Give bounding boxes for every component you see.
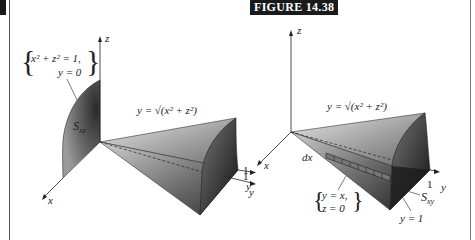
cone-equation: y = √(x² + z²) xyxy=(136,104,197,117)
z-arrowhead-icon xyxy=(289,30,293,36)
leader-line-sxy xyxy=(407,191,420,195)
x-arrowhead-icon xyxy=(257,160,262,166)
cone-equation: y = √(x² + z²) xyxy=(326,100,387,113)
y-tick-1-left: 1 xyxy=(243,164,249,176)
right-brace: } xyxy=(86,44,100,77)
figure-diagrams: z x y 1 Sxz { } x² + z² = 1, y = 0 y = √… xyxy=(0,0,475,240)
y-axis-label: y xyxy=(440,181,446,193)
right-brace: } xyxy=(352,187,364,213)
left-diagram: z x y 1 Sxz { } x² + z² = 1, y = 0 y = √… xyxy=(21,32,256,215)
right-diagram: z x y 1 y 1 dx Sxy { } y = x, z = 0 y = … xyxy=(223,24,446,224)
line-label-line2: z = 0 xyxy=(321,202,345,214)
y-arrowhead-icon xyxy=(434,169,440,174)
x-axis-label: x xyxy=(263,159,269,171)
line-label-line1: y = x, xyxy=(321,189,348,201)
y-axis-label-left: y xyxy=(248,186,254,198)
z-axis-label: z xyxy=(296,24,302,36)
leader-line-yx xyxy=(338,176,346,190)
dx-label: dx xyxy=(302,151,313,163)
x-axis xyxy=(44,178,63,197)
z-axis-label: z xyxy=(104,32,110,44)
y-arrowhead-icon xyxy=(250,170,256,175)
y-tick-1: 1 xyxy=(427,178,433,190)
leader-line xyxy=(67,79,77,100)
curve-label-line2: y = 0 xyxy=(57,66,82,78)
leader-line-y1 xyxy=(403,198,411,211)
surface-sxy-label: Sxy xyxy=(421,190,435,206)
z-arrowhead-icon xyxy=(98,36,102,42)
plane-label: y = 1 xyxy=(399,212,423,224)
curve-label-line1: x² + z² = 1, xyxy=(30,52,81,64)
x-axis-label: x xyxy=(47,194,53,206)
